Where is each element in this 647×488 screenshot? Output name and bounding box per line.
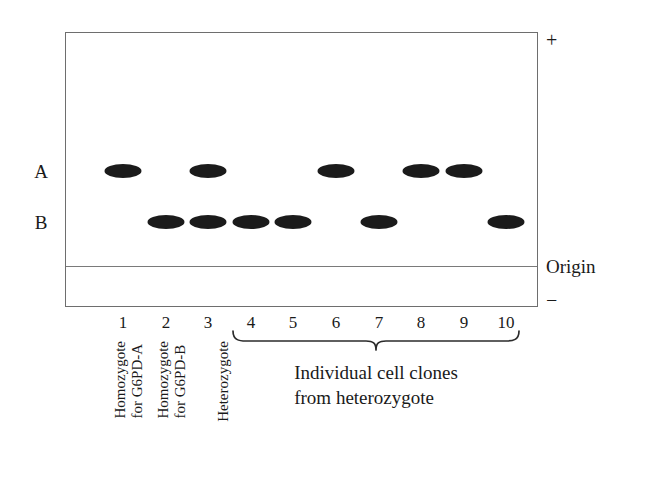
lane-caption-3-line-1: Heterozygote	[215, 341, 232, 422]
band-lane-7-row-b	[361, 215, 398, 229]
band-lane-1-row-a	[105, 164, 142, 178]
polarity-positive-label: +	[546, 30, 557, 50]
band-lane-3-row-a	[190, 164, 227, 178]
origin-label: Origin	[546, 257, 596, 276]
band-lane-3-row-b	[190, 215, 227, 229]
band-lane-4-row-b	[233, 215, 270, 229]
lane-number-3: 3	[204, 314, 213, 331]
band-lane-10-row-b	[488, 215, 525, 229]
group-caption: Individual cell clones from heterozygote	[294, 360, 458, 411]
band-lane-6-row-a	[318, 164, 355, 178]
band-lane-8-row-a	[403, 164, 440, 178]
band-lane-5-row-b	[275, 215, 312, 229]
lane-number-9: 9	[460, 314, 469, 331]
polarity-negative-label: −	[546, 290, 557, 310]
lane-number-7: 7	[375, 314, 384, 331]
group-caption-line-2: from heterozygote	[294, 385, 458, 410]
row-label-a: A	[34, 162, 48, 181]
lane-number-4: 4	[247, 314, 256, 331]
lane-caption-3: Heterozygote	[215, 341, 232, 422]
band-lane-9-row-a	[446, 164, 483, 178]
lane-number-6: 6	[332, 314, 341, 331]
lane-number-10: 10	[498, 314, 515, 331]
lane-caption-1-line-1: Homozygote	[112, 341, 129, 418]
lane-number-1: 1	[119, 314, 128, 331]
lane-number-8: 8	[417, 314, 426, 331]
lane-number-5: 5	[289, 314, 298, 331]
lane-caption-1-line-2: for G6PD-A	[129, 341, 146, 418]
band-lane-2-row-b	[148, 215, 185, 229]
row-label-b: B	[35, 213, 48, 232]
origin-line	[66, 266, 537, 267]
group-brace	[230, 330, 522, 352]
lane-number-2: 2	[162, 314, 171, 331]
lane-caption-2-line-1: Homozygote	[155, 341, 172, 418]
lane-caption-2: Homozygote for G6PD-B	[155, 341, 189, 418]
lane-caption-1: Homozygote for G6PD-A	[112, 341, 146, 418]
group-caption-line-1: Individual cell clones	[294, 360, 458, 385]
lane-caption-2-line-2: for G6PD-B	[172, 341, 189, 418]
